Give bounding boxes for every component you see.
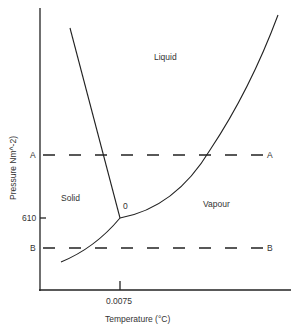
y-tick-label-610: 610: [22, 214, 36, 223]
x-tick-label-00075: 0.0075: [106, 297, 132, 306]
vaporisation-curve: [120, 15, 278, 218]
fusion-line: [70, 28, 120, 218]
triple-point-label: 0: [123, 202, 128, 211]
line-a-label-right: A: [267, 151, 273, 160]
y-axis-title: Pressure Nm^-2): [9, 136, 18, 200]
line-b-label-left: B: [30, 244, 36, 253]
line-a-label-left: A: [30, 151, 36, 160]
region-label-liquid: Liquid: [154, 53, 177, 62]
line-b-label-right: B: [267, 244, 273, 253]
region-label-vapour: Vapour: [203, 200, 230, 209]
phase-diagram: [0, 0, 298, 327]
x-axis-title: Temperature (°C): [105, 315, 170, 324]
region-label-solid: Solid: [61, 194, 80, 203]
sublimation-curve: [61, 218, 120, 262]
